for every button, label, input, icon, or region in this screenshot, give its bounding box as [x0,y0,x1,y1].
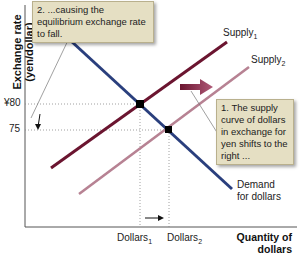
y-tick-80: ¥80 [4,97,21,108]
x-tick-dollars1: Dollars1 [117,232,152,245]
shift-right-arrow-icon [180,79,213,95]
y-tick-75: 75 [9,123,20,134]
annotation-note-1: 1. The supply curve of dollars in exchan… [216,99,294,165]
supply2-label: Supply2 [251,54,285,67]
equilibrium-point-2 [165,126,172,133]
note2-leader [31,32,72,118]
supply1-label: Supply1 [223,27,257,40]
annotation-note-2: 2. ...causing the equilibrium exchange r… [32,1,154,43]
demand-curve [71,41,232,189]
demand-label: Demandfor dollars [237,179,281,203]
down-arrow-icon [35,124,41,130]
equilibrium-point-1 [136,100,144,108]
x-axis-title: Quantity ofdollars [230,231,292,255]
x-tick-dollars2: Dollars2 [167,232,202,245]
note1-leader [191,91,218,134]
quantity-shift-arrow-icon [158,215,164,221]
